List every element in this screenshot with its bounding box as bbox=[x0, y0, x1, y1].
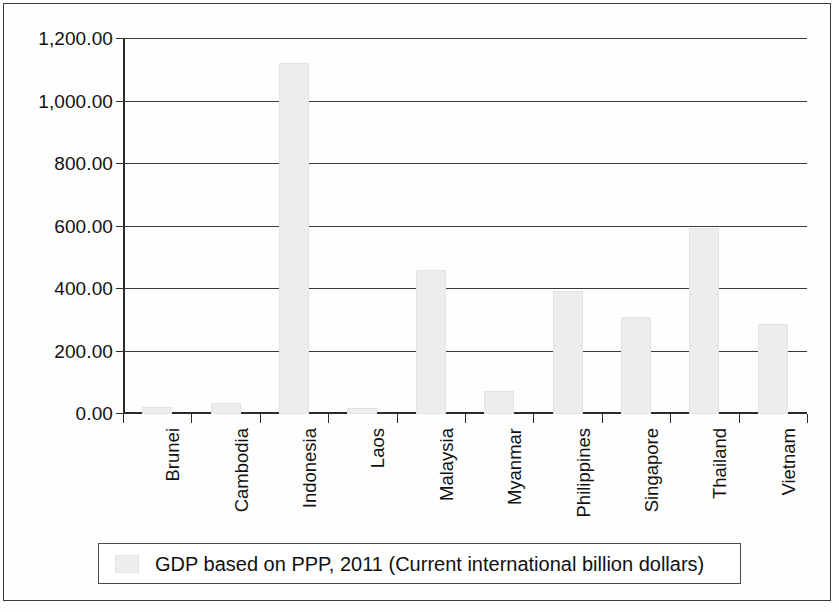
x-axis-label: Myanmar bbox=[506, 428, 525, 505]
x-axis-label: Malaysia bbox=[438, 428, 457, 501]
bar-slot bbox=[191, 39, 259, 414]
y-axis-label: 200.00 bbox=[5, 342, 113, 361]
y-axis-tick bbox=[116, 226, 123, 227]
x-axis-label: Philippines bbox=[575, 428, 594, 517]
x-axis-tick bbox=[465, 414, 466, 423]
bar-slot bbox=[260, 39, 328, 414]
legend-swatch-icon bbox=[115, 555, 139, 573]
y-axis-label: 600.00 bbox=[5, 217, 113, 236]
x-axis-tick bbox=[123, 414, 124, 423]
x-axis-tick bbox=[191, 414, 192, 423]
y-axis-tick bbox=[116, 351, 123, 352]
x-axis-tick bbox=[739, 414, 740, 423]
y-axis-tick bbox=[116, 38, 123, 39]
scan-edge bbox=[0, 606, 839, 612]
x-axis-tick bbox=[807, 414, 808, 423]
bar[interactable] bbox=[621, 317, 651, 414]
bar[interactable] bbox=[142, 407, 172, 414]
x-axis-tick bbox=[533, 414, 534, 423]
bar-slot bbox=[739, 39, 807, 414]
x-axis-label: Singapore bbox=[643, 428, 662, 512]
bar-slot bbox=[328, 39, 396, 414]
bar[interactable] bbox=[484, 391, 514, 414]
x-axis-label: Indonesia bbox=[301, 428, 320, 508]
y-axis-label: 1,200.00 bbox=[5, 29, 113, 48]
bar[interactable] bbox=[211, 403, 241, 414]
bar[interactable] bbox=[758, 324, 788, 414]
bar[interactable] bbox=[279, 63, 309, 414]
bar[interactable] bbox=[347, 408, 377, 414]
chart-legend: GDP based on PPP, 2011 (Current internat… bbox=[98, 543, 741, 584]
x-axis-tick bbox=[602, 414, 603, 423]
y-axis-label: 800.00 bbox=[5, 154, 113, 173]
y-axis-tick bbox=[116, 288, 123, 289]
y-axis-tick bbox=[116, 101, 123, 102]
x-axis-label: Brunei bbox=[164, 428, 183, 481]
y-axis-tick bbox=[116, 163, 123, 164]
bar-slot bbox=[123, 39, 191, 414]
x-axis-label: Vietnam bbox=[780, 428, 799, 496]
x-axis-tick bbox=[397, 414, 398, 423]
bar-slot bbox=[670, 39, 738, 414]
bar[interactable] bbox=[416, 270, 446, 414]
x-axis-tick bbox=[328, 414, 329, 423]
bar[interactable] bbox=[689, 228, 719, 414]
bar-slot bbox=[602, 39, 670, 414]
bar-slot bbox=[465, 39, 533, 414]
y-axis-label: 1,000.00 bbox=[5, 92, 113, 111]
x-axis-label: Cambodia bbox=[233, 428, 252, 512]
x-axis-label: Laos bbox=[369, 428, 388, 468]
bar-chart: 0.00200.00400.00600.00800.001,000.001,20… bbox=[0, 0, 839, 612]
bars-layer bbox=[123, 39, 807, 414]
y-axis-label: 400.00 bbox=[5, 279, 113, 298]
y-axis-tick bbox=[116, 413, 123, 414]
x-axis-tick bbox=[670, 414, 671, 423]
bar-slot bbox=[397, 39, 465, 414]
x-axis-label: Thailand bbox=[711, 428, 730, 499]
y-axis-label: 0.00 bbox=[5, 404, 113, 423]
bar-slot bbox=[533, 39, 601, 414]
legend-label: GDP based on PPP, 2011 (Current internat… bbox=[155, 554, 704, 574]
bar[interactable] bbox=[553, 291, 583, 414]
x-axis-tick bbox=[260, 414, 261, 423]
